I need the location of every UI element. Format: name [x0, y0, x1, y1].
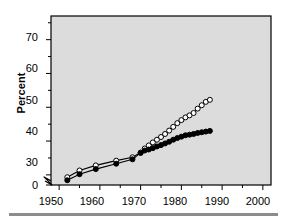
footer-rule [9, 213, 278, 216]
data-point-0-18 [191, 111, 196, 116]
data-point-1-2 [93, 167, 98, 172]
data-point-1-3 [114, 161, 119, 166]
chart-figure: Percent 70 60 50 40 30 0 1950 1960 1970 … [0, 0, 287, 222]
data-point-1-22 [207, 128, 212, 133]
data-point-1-1 [77, 172, 82, 177]
data-point-0-12 [167, 128, 172, 133]
data-point-0-22 [207, 97, 212, 102]
data-point-1-4 [130, 157, 135, 162]
data-point-1-0 [65, 178, 70, 183]
plot-area [0, 0, 287, 222]
plot-background [51, 16, 271, 185]
data-point-0-13 [171, 124, 176, 129]
